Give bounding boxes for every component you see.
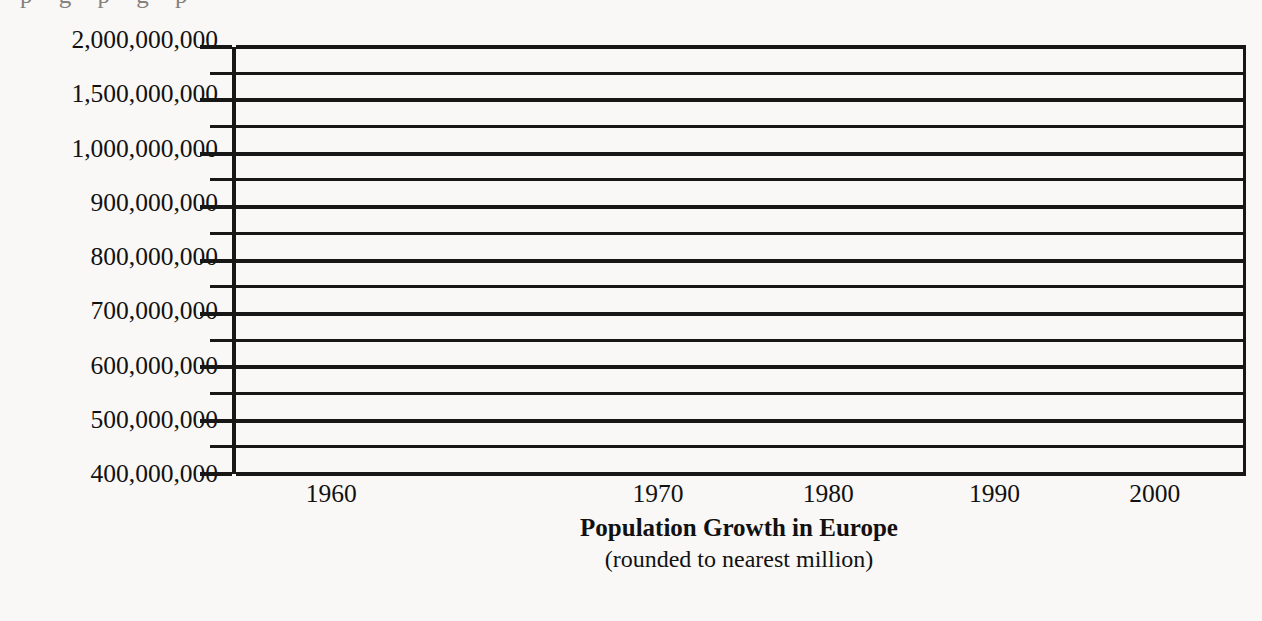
gridline-major [236,312,1246,316]
y-axis-minor-tick [210,178,232,181]
gridline-major [236,365,1246,369]
population-growth-chart: 2,000,000,0001,500,000,0001,000,000,0009… [0,0,1262,621]
y-axis-major-tick [200,45,232,49]
y-axis-tick-label: 400,000,000 [6,461,218,487]
y-axis-tick-label: 1,500,000,000 [6,82,218,108]
y-axis-major-tick [200,152,232,156]
y-axis-tick-label: 800,000,000 [6,244,218,270]
gridline-minor [236,392,1246,395]
y-axis-minor-tick [210,445,232,448]
y-axis-major-tick [200,312,232,316]
y-axis-tick-label: 600,000,000 [6,353,218,379]
gridline-minor [236,339,1246,342]
gridline-major [236,45,1246,49]
y-axis-minor-tick [210,285,232,288]
y-axis-major-tick [200,205,232,209]
y-axis-minor-tick [210,125,232,128]
y-axis-tick-label: 1,000,000,000 [6,136,218,162]
plot-area [232,47,1246,474]
y-axis-tick-label: 500,000,000 [6,407,218,433]
y-axis-major-tick [200,419,232,423]
x-axis-tick-label: 1970 [632,479,683,510]
gridline-major [236,419,1246,423]
gridline-minor [236,232,1246,235]
y-axis-major-tick [200,472,232,476]
y-axis-minor-tick [210,232,232,235]
gridline-major [236,205,1246,209]
gridline-major [236,472,1246,476]
chart-subtitle: (rounded to nearest million) [232,544,1246,574]
x-axis-tick-label: 1960 [306,479,357,510]
chart-title: Population Growth in Europe [232,512,1246,544]
y-axis-minor-tick [210,392,232,395]
x-axis-tick-label: 1980 [803,479,854,510]
y-axis-tick-labels: 2,000,000,0001,500,000,0001,000,000,0009… [6,40,218,474]
chart-title-block: Population Growth in Europe (rounded to … [232,512,1246,574]
y-axis-tick-label: 2,000,000,000 [6,27,218,53]
gridline-minor [236,445,1246,448]
gridline-major [236,98,1246,102]
gridline-minor [236,125,1246,128]
x-axis-tick-label: 2000 [1129,479,1180,510]
gridline-major [236,259,1246,263]
y-axis-tick-label: 700,000,000 [6,299,218,325]
gridline-minor [236,285,1246,288]
y-axis-tick-label: 900,000,000 [6,190,218,216]
x-axis-tick-label: 1990 [969,479,1020,510]
y-axis-major-tick [200,259,232,263]
y-axis-major-tick [200,98,232,102]
gridline-minor [236,178,1246,181]
gridline-major [236,152,1246,156]
y-axis-minor-tick [210,72,232,75]
y-axis-minor-tick [210,339,232,342]
gridline-minor [236,72,1246,75]
y-axis-major-tick [200,365,232,369]
